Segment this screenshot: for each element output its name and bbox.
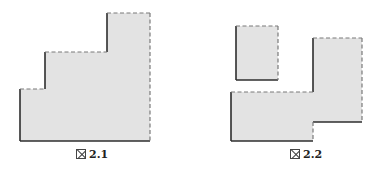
- small-rectangle-region: [236, 26, 278, 80]
- figure-2-1-caption: 2.1: [76, 148, 108, 161]
- diagram-canvas: [0, 0, 376, 171]
- figure-mark-icon: [290, 149, 300, 159]
- figure-mark-icon: [76, 149, 86, 159]
- figure-2-1-number: 2.1: [89, 148, 108, 161]
- figure-2-1-shape: [20, 13, 150, 141]
- figure-2-2-number: 2.2: [303, 148, 322, 161]
- staircase-region: [20, 13, 150, 141]
- figure-2-2-caption: 2.2: [290, 148, 322, 161]
- figure-2-2-shape: [231, 26, 362, 141]
